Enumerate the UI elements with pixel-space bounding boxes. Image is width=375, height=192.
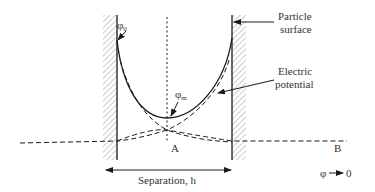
electric-potential-label-line2: potential [275,78,314,90]
phi-0-arrow [118,31,126,40]
separation-label: Separation, h [138,174,197,186]
right-decay-curve [117,60,229,141]
electric-potential-label-line1: Electric [278,65,312,77]
point-a-label: A [171,142,179,154]
particle-surface-label-line2: surface [280,23,312,35]
phi-tends-to-zero: φ 0 [320,167,352,179]
phi-symbol: φ [320,167,326,179]
phi-m-arrow [171,102,178,116]
left-particle-wall [103,15,117,160]
electric-potential-curve [117,38,232,118]
particle-surface-label-line1: Particle [278,10,312,22]
phi-m-label: φm [175,88,187,102]
double-layer-diagram: φ0 φm Particle surface Electric potentia… [0,0,375,192]
zero-symbol: 0 [346,167,352,179]
left-isolated-potential-curve [20,130,347,143]
point-b-label: B [334,142,341,154]
